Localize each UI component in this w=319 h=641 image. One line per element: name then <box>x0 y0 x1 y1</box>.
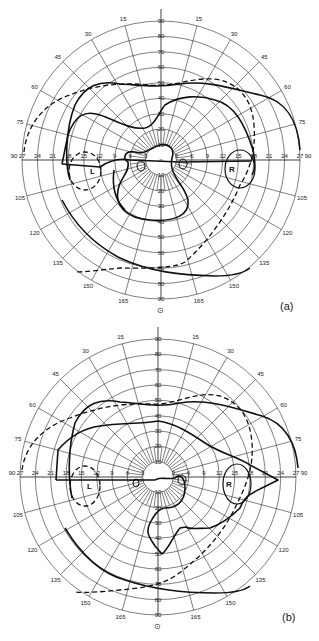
ring-label: 70 <box>158 49 165 55</box>
meridian-label: 105 <box>15 195 26 201</box>
meridian-label: 60 <box>280 402 287 408</box>
horizontal-label: 3 <box>172 470 176 476</box>
ring-label: 90 <box>155 336 162 342</box>
meridian-line <box>122 492 154 610</box>
meridian-line <box>41 91 148 153</box>
meridian-line <box>169 379 256 466</box>
meridian-label: 75 <box>15 436 22 442</box>
meridian-line <box>174 91 281 153</box>
ring-label: 50 <box>155 397 162 403</box>
isopter-solid-horizontal <box>62 159 252 167</box>
horizontal-label: 9 <box>206 153 210 159</box>
horizontal-label: 90 <box>301 470 308 476</box>
ring-label: 90 <box>158 18 165 24</box>
horizontal-label: 3 <box>144 153 148 159</box>
ring-label: 80 <box>158 281 165 287</box>
ring-label: 60 <box>155 566 162 572</box>
scotoma-small-right <box>179 159 187 169</box>
visual-field-chart-a: 1010202030304040505060607070808090909027… <box>0 0 319 318</box>
meridian-line <box>27 124 146 156</box>
meridian-label: 60 <box>29 402 36 408</box>
visual-field-chart-b: 1010202030304040505060607070808090909027… <box>0 318 319 641</box>
horizontal-label: 15 <box>78 470 85 476</box>
meridian-label: 105 <box>293 512 304 518</box>
meridian-line <box>60 488 147 575</box>
horizontal-label: 24 <box>277 470 284 476</box>
meridian-label: 150 <box>225 600 236 606</box>
isopter-solid-outer <box>62 83 300 276</box>
meridian-label: 150 <box>83 283 94 289</box>
meridian-line <box>174 168 281 230</box>
meridian-line <box>41 168 148 230</box>
meridian-label: 165 <box>118 298 129 304</box>
meridian-label: 15 <box>117 334 124 340</box>
meridian-label: 30 <box>85 31 92 37</box>
meridian-line <box>92 173 154 280</box>
meridian-line <box>172 62 259 149</box>
meridian-label: 135 <box>50 577 61 583</box>
meridian-label: 45 <box>257 371 264 377</box>
horizontal-label: 6 <box>190 153 194 159</box>
meridian-line <box>89 357 150 463</box>
horizontal-label: 24 <box>32 470 39 476</box>
meridian-line <box>176 164 295 196</box>
horizontal-label: 12 <box>219 153 226 159</box>
meridian-line <box>25 481 143 513</box>
meridian-label: 135 <box>256 577 267 583</box>
horizontal-label: 27 <box>17 470 24 476</box>
meridian-label: 60 <box>284 84 291 90</box>
horizontal-label: 27 <box>297 153 304 159</box>
ring-label: 20 <box>158 126 165 132</box>
horizontal-label: 12 <box>216 470 223 476</box>
ring-label: 20 <box>155 443 162 449</box>
meridian-label: 120 <box>27 547 38 553</box>
horizontal-label: 12 <box>96 153 103 159</box>
ring-label: 30 <box>158 203 165 209</box>
ring-label: 10 <box>155 459 162 465</box>
meridian-line <box>25 441 143 473</box>
horizontal-label: 21 <box>47 470 54 476</box>
horizontal-label: 15 <box>235 153 242 159</box>
isopter-dashed-outer <box>24 79 254 272</box>
ring-label: 30 <box>155 428 162 434</box>
horizontal-label: 90 <box>305 153 312 159</box>
ring-label: 80 <box>155 351 162 357</box>
horizontal-label: 24 <box>281 153 288 159</box>
isopter-dashed-outer <box>22 395 252 593</box>
panel-label-b: (b) <box>282 611 295 623</box>
meridian-line <box>172 171 259 258</box>
horizontal-label: 90 <box>11 153 18 159</box>
meridian-label: 45 <box>54 54 61 60</box>
meridian-line <box>173 481 291 513</box>
blind-spot-label-left: L <box>90 167 95 176</box>
horizontal-label: 90 <box>9 470 16 476</box>
meridian-line <box>125 175 157 294</box>
ring-label: 90 <box>155 612 162 618</box>
meridian-label: 165 <box>194 298 205 304</box>
meridian-line <box>166 357 227 463</box>
horizontal-label: 24 <box>34 153 41 159</box>
meridian-line <box>63 171 150 258</box>
horizontal-label: 21 <box>50 153 57 159</box>
horizontal-label: 9 <box>110 470 114 476</box>
ring-label: 10 <box>158 172 165 178</box>
ring-label: 40 <box>155 413 162 419</box>
meridian-line <box>89 490 150 596</box>
ring-label: 30 <box>155 520 162 526</box>
ring-label: 50 <box>158 234 165 240</box>
meridian-label: 15 <box>192 334 199 340</box>
horizontal-label: 21 <box>266 153 273 159</box>
horizontal-label: 9 <box>113 153 117 159</box>
ring-label: 70 <box>155 367 162 373</box>
horizontal-label: 27 <box>293 470 300 476</box>
meridian-label: 120 <box>282 230 293 236</box>
horizontal-label: 15 <box>80 153 87 159</box>
meridian-label: 30 <box>227 348 234 354</box>
meridian-label: 135 <box>259 260 270 266</box>
meridian-label: 165 <box>115 614 126 620</box>
horizontal-label: 6 <box>187 470 191 476</box>
ring-label: 10 <box>155 489 162 495</box>
meridian-label: 135 <box>53 260 64 266</box>
meridian-line <box>38 408 144 469</box>
ring-label: 90 <box>158 296 165 302</box>
